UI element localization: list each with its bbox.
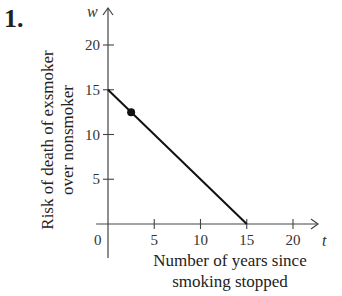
x-axis-label-line-2: smoking stopped — [130, 271, 330, 292]
y-axis-label-line-1: Risk of death of exsmoker — [38, 20, 58, 260]
x-axis-label: Number of years since smoking stopped — [130, 250, 330, 292]
axes: wt0 — [87, 3, 327, 258]
x-axis-label-line-1: Number of years since — [130, 250, 330, 271]
y-variable-label: w — [87, 3, 98, 20]
y-axis-label-line-2: over nonsmoker — [58, 20, 78, 260]
y-tick-label: 10 — [85, 127, 100, 143]
y-tick-label: 15 — [85, 82, 100, 98]
data-point — [127, 108, 135, 116]
x-variable-label: t — [322, 232, 327, 249]
x-tick-label: 10 — [193, 232, 208, 248]
series — [108, 90, 247, 224]
y-tick-label: 5 — [93, 171, 101, 187]
y-axis-label: Risk of death of exsmoker over nonsmoker — [38, 20, 78, 260]
x-tick-label: 20 — [286, 232, 301, 248]
origin-label: 0 — [94, 232, 102, 248]
x-tick-label: 5 — [151, 232, 159, 248]
y-tick-label: 20 — [85, 37, 100, 53]
x-tick-label: 15 — [239, 232, 254, 248]
ticks: 51015205101520 — [85, 37, 301, 248]
